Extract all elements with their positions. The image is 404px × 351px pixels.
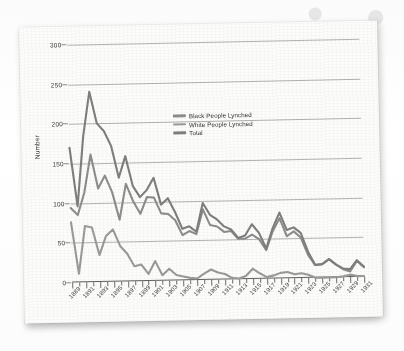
x-axis-tick-label: 1909	[207, 283, 221, 297]
x-axis-tick	[114, 282, 115, 288]
legend-item-label: White People Lynched	[189, 119, 253, 127]
x-axis-tick	[100, 282, 101, 288]
x-axis-tick	[149, 281, 150, 285]
x-axis-tick	[225, 280, 226, 286]
x-axis-tick-label: 1893	[96, 285, 110, 299]
legend-item: Black People Lynched	[173, 111, 253, 120]
x-axis-tick-label: 1899	[137, 284, 151, 298]
plot-area: 050100150200250300 188918911893189518971…	[67, 39, 364, 283]
x-axis-tick-label: 1907	[193, 283, 207, 297]
x-axis-tick	[288, 278, 289, 282]
x-axis-tick	[128, 281, 129, 287]
x-axis-tick-label: 1913	[235, 282, 249, 296]
x-axis-tick	[218, 280, 219, 284]
y-axis-tick	[64, 163, 69, 164]
x-axis-tick	[211, 280, 212, 286]
legend-swatch-icon	[173, 123, 186, 126]
y-axis-tick-label: 250	[51, 81, 63, 88]
scanned-page: Number 050100150200250300 18891891189318…	[19, 20, 383, 323]
y-axis-tick	[65, 203, 70, 204]
y-axis-title: Number	[33, 135, 40, 159]
x-axis-tick-label: 1927	[332, 280, 346, 294]
screenshot-root: Number 050100150200250300 18891891189318…	[0, 0, 404, 351]
y-axis-tick-label: 100	[53, 200, 65, 207]
x-axis-tick	[239, 279, 240, 285]
series-line	[70, 149, 364, 277]
x-axis-tick	[364, 277, 365, 283]
x-axis-tick	[281, 278, 282, 284]
x-axis-tick-label: 1931	[360, 280, 374, 294]
x-axis-tick	[79, 282, 80, 286]
x-axis-tick	[357, 277, 358, 281]
x-axis-tick	[121, 282, 122, 286]
x-axis-tick	[274, 279, 275, 283]
x-axis-tick	[190, 280, 191, 284]
y-axis-tick	[66, 282, 71, 283]
x-axis-tick	[72, 283, 73, 289]
legend-item: White People Lynched	[173, 119, 253, 128]
x-axis-tick	[246, 279, 247, 283]
x-axis-tick-label: 1923	[304, 281, 318, 295]
y-axis-tick	[65, 242, 70, 243]
x-axis-tick-label: 1891	[82, 285, 96, 299]
x-axis-tick-label: 1919	[276, 281, 290, 295]
x-axis-tick	[253, 279, 254, 285]
y-axis-tick	[62, 84, 67, 85]
x-axis-tick-label: 1903	[165, 284, 179, 298]
y-axis-tick-label: 300	[50, 41, 62, 48]
x-axis-tick-label: 1895	[109, 285, 123, 299]
x-axis-tick-label: 1925	[318, 280, 332, 294]
x-axis-tick-label: 1889	[68, 286, 82, 300]
x-axis-tick	[176, 280, 177, 284]
x-axis-tick	[204, 280, 205, 284]
x-axis-tick	[142, 281, 143, 287]
y-axis-tick-label: 50	[58, 240, 66, 247]
x-axis-tick	[86, 282, 87, 288]
x-axis-tick	[260, 279, 261, 283]
legend-swatch-icon	[173, 114, 186, 117]
y-axis-tick-label: 0	[62, 279, 66, 286]
x-axis-tick	[302, 278, 303, 282]
y-axis-tick-label: 200	[51, 121, 63, 128]
x-axis-tick	[107, 282, 108, 286]
x-axis-tick-label: 1929	[346, 280, 360, 294]
x-axis-tick-label: 1911	[221, 282, 235, 296]
x-axis-tick-label: 1917	[262, 282, 276, 296]
y-axis-tick-label: 150	[52, 160, 64, 167]
legend-item-label: Black People Lynched	[189, 111, 252, 119]
series-lines	[67, 39, 364, 283]
legend-item-label: Total	[189, 129, 203, 136]
x-axis-tick-label: 1905	[179, 283, 193, 297]
y-axis-tick	[61, 44, 66, 45]
x-axis-tick-label: 1901	[151, 284, 165, 298]
x-axis-tick	[163, 281, 164, 285]
x-axis-tick-label: 1921	[290, 281, 304, 295]
x-axis-tick-label: 1915	[248, 282, 262, 296]
legend-swatch-icon	[173, 131, 186, 134]
x-axis-tick	[93, 282, 94, 286]
x-axis-tick	[343, 277, 344, 281]
page-inner: Number 050100150200250300 18891891189318…	[19, 20, 383, 323]
x-axis-tick	[135, 281, 136, 285]
x-axis-tick-label: 1897	[123, 284, 137, 298]
x-axis-tick	[267, 279, 268, 285]
y-axis-tick	[63, 123, 68, 124]
chart-legend: Black People LynchedWhite People Lynched…	[173, 111, 253, 137]
x-axis-tick	[232, 279, 233, 283]
